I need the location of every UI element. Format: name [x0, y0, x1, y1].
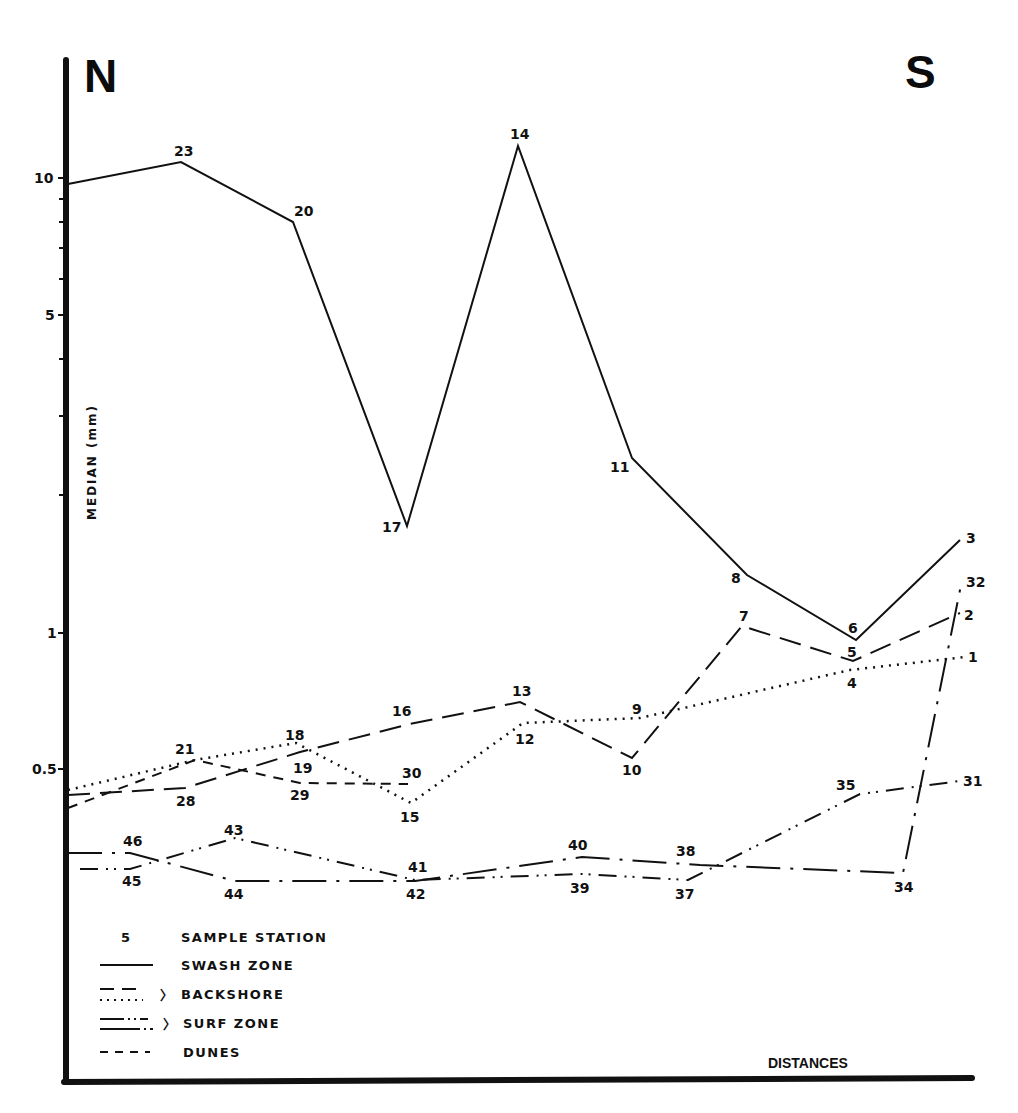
station-label: 30 — [402, 765, 422, 781]
station-label: 34 — [894, 879, 914, 895]
station-label: 29 — [290, 787, 309, 803]
ytick-label-1: 1 — [47, 625, 57, 641]
station-label: 1 — [968, 649, 978, 665]
station-label: 4 — [847, 675, 857, 691]
station-label: 3 — [966, 530, 976, 546]
station-label: 16 — [392, 703, 411, 719]
station-label: 6 — [848, 620, 858, 636]
legend-surf-zone: SURF ZONE — [183, 1016, 280, 1031]
station-label: 5 — [847, 644, 857, 660]
legend-backshore-brace: 〉 — [160, 988, 175, 1003]
swash-zone-line — [68, 146, 960, 640]
station-label: 10 — [622, 762, 642, 778]
north-label: N — [84, 50, 117, 102]
ytick-label-10: 10 — [34, 170, 54, 186]
station-label: 28 — [176, 793, 195, 809]
station-label: 23 — [174, 143, 193, 159]
station-label: 20 — [294, 203, 314, 219]
dunes-line — [68, 760, 408, 808]
station-label: 40 — [568, 837, 588, 853]
station-label: 17 — [382, 519, 401, 535]
station-label: 45 — [122, 873, 141, 889]
station-label: 11 — [610, 459, 629, 475]
station-label: 32 — [966, 574, 985, 590]
station-label: 2 — [964, 607, 974, 623]
station-label: 43 — [224, 822, 243, 838]
station-label: 46 — [123, 833, 142, 849]
legend-sample-symbol: 5 — [121, 930, 132, 945]
x-axis-title: DISTANCES — [768, 1055, 848, 1071]
legend-swash-zone: SWASH ZONE — [181, 958, 294, 973]
station-label: 9 — [632, 701, 642, 717]
backshore-dotted-line — [68, 657, 965, 803]
legend-surf-brace: 〉 — [163, 1017, 178, 1032]
station-label: 15 — [400, 809, 419, 825]
station-label: 18 — [285, 727, 304, 743]
station-label: 35 — [836, 777, 855, 793]
station-label: 19 — [293, 760, 312, 776]
station-label: 31 — [963, 773, 982, 789]
x-axis — [64, 1078, 972, 1082]
station-label: 44 — [224, 886, 244, 902]
station-label: 37 — [675, 886, 694, 902]
station-label: 14 — [510, 126, 530, 142]
legend-sample-station: SAMPLE STATION — [181, 930, 328, 945]
station-label: 8 — [731, 570, 741, 586]
legend: 5 SAMPLE STATION SWASH ZONE 〉 BACKSHORE … — [100, 930, 328, 1060]
ytick-label-5: 5 — [45, 307, 55, 323]
legend-backshore: BACKSHORE — [181, 987, 284, 1002]
south-label: S — [905, 46, 936, 98]
series-lines — [68, 146, 965, 881]
station-label: 12 — [515, 731, 534, 747]
station-label: 13 — [512, 683, 531, 699]
station-label: 21 — [175, 741, 194, 757]
backshore-dashed-line — [68, 613, 960, 795]
station-label: 7 — [739, 608, 749, 624]
station-label: 42 — [406, 886, 425, 902]
station-label: 38 — [676, 843, 695, 859]
chart: 10 5 1 0.5 N S MEDIAN (mm) DISTANCES 23 … — [0, 0, 1018, 1113]
legend-dunes: DUNES — [183, 1045, 241, 1060]
ytick-label-0.5: 0.5 — [32, 761, 57, 777]
y-axis-title: MEDIAN (mm) — [85, 404, 99, 520]
station-label: 41 — [408, 859, 427, 875]
station-label: 39 — [570, 880, 589, 896]
